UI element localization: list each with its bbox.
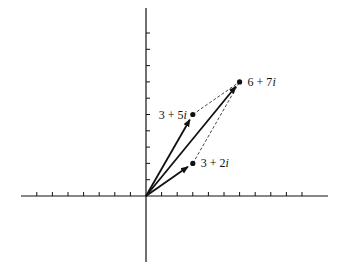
vector-arrow <box>146 120 190 196</box>
diagram-canvas: 3 + 5i3 + 2i6 + 7i <box>0 0 344 272</box>
complex-plane-diagram: 3 + 5i3 + 2i6 + 7i <box>0 0 344 272</box>
point-z2 <box>190 161 195 166</box>
vectors <box>146 87 236 196</box>
dashed-edge <box>193 82 240 163</box>
point-z1 <box>190 112 195 117</box>
point-label-z1: 3 + 5i <box>159 108 187 122</box>
parallelogram-dashed-edges <box>193 82 240 163</box>
point-sum <box>237 79 242 84</box>
point-label-sum: 6 + 7i <box>248 75 276 89</box>
point-label-z2: 3 + 2i <box>201 156 229 170</box>
axes <box>21 8 328 262</box>
points: 3 + 5i3 + 2i6 + 7i <box>159 75 276 170</box>
vector-arrow <box>146 87 236 196</box>
